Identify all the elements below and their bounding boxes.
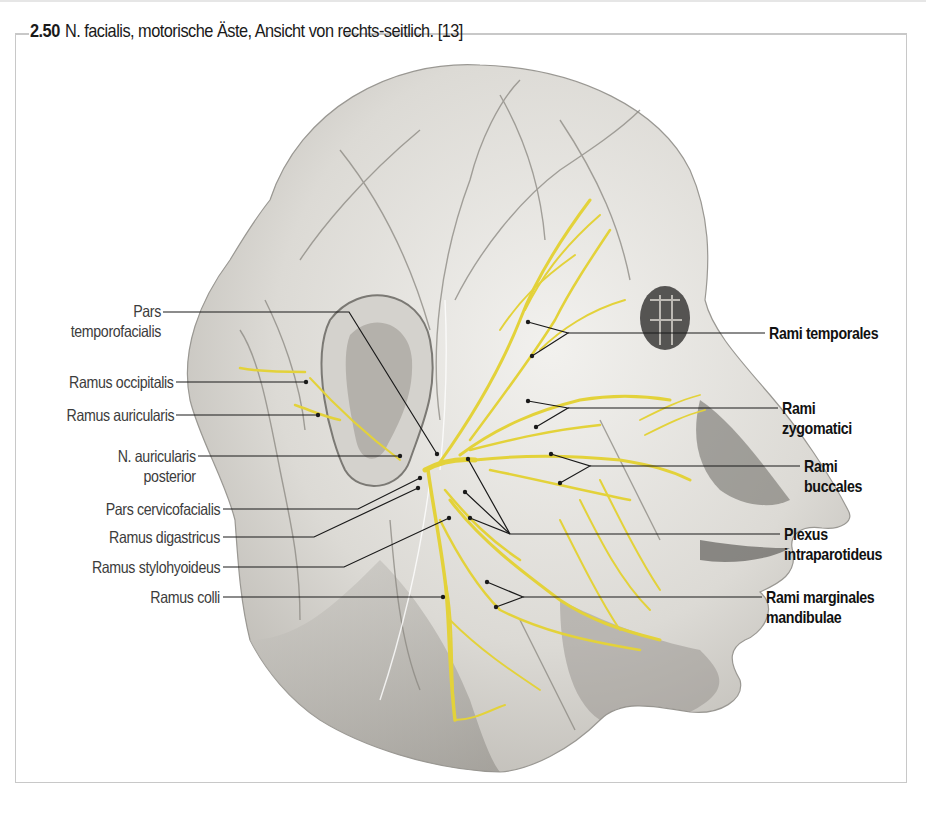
label-n-auricularis-posterior: N. auricularis posterior xyxy=(118,446,196,486)
label-plexus-intraparotideus: Plexus intraparotideus xyxy=(784,524,882,564)
label-pars-temporofacialis: Pars temporofacialis xyxy=(71,301,161,341)
label-rami-buccales: Rami buccales xyxy=(804,456,862,496)
label-ramus-occipitalis: Ramus occipitalis xyxy=(69,372,174,392)
label-rami-marginales-mandibulae: Rami marginales mandibulae xyxy=(766,587,874,627)
head-silhouette xyxy=(187,65,849,772)
label-ramus-colli: Ramus colli xyxy=(150,587,220,607)
label-ramus-auricularis: Ramus auricularis xyxy=(66,405,174,425)
label-pars-cervicofacialis: Pars cervicofacialis xyxy=(105,499,220,519)
label-rami-zygomatici: Rami zygomatici xyxy=(782,398,852,438)
label-ramus-stylohyoideus: Ramus stylohyoideus xyxy=(92,557,220,577)
label-rami-temporales: Rami temporales xyxy=(769,323,878,343)
label-ramus-digastricus: Ramus digastricus xyxy=(109,527,220,547)
